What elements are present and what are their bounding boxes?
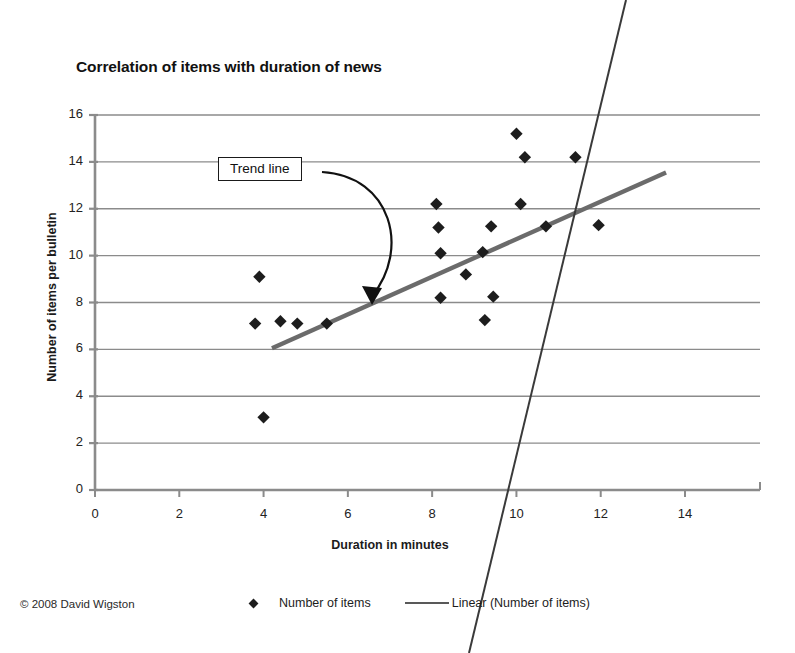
plot-area <box>0 0 795 653</box>
data-point-diamond <box>487 290 499 302</box>
data-point-diamond <box>291 317 303 329</box>
trend-line-annotation: Trend line <box>218 157 302 181</box>
data-point-diamond <box>479 314 491 326</box>
copyright-notice: © 2008 David Wigston <box>20 598 135 610</box>
data-point-diamond <box>253 271 265 283</box>
data-point-diamond <box>274 315 286 327</box>
data-point-diamond <box>434 247 446 259</box>
legend-label-trendline: Linear (Number of items) <box>452 596 590 610</box>
diamond-marker-icon <box>249 598 259 608</box>
chart-legend: Number of items Linear (Number of items) <box>248 596 590 610</box>
chart-figure: Correlation of items with duration of ne… <box>0 0 795 653</box>
data-point-diamond <box>432 221 444 233</box>
data-point-diamond <box>249 317 261 329</box>
scan-artifact-line <box>469 0 626 653</box>
data-point-diamond <box>460 268 472 280</box>
legend-entry-points: Number of items <box>248 596 371 610</box>
legend-label-points: Number of items <box>279 596 371 610</box>
line-marker-icon <box>405 602 449 605</box>
data-point-diamond <box>592 219 604 231</box>
data-point-diamond <box>485 220 497 232</box>
data-point-diamond <box>257 411 269 423</box>
annotation-arrow-curve <box>322 172 391 296</box>
legend-entry-trendline: Linear (Number of items) <box>371 596 590 610</box>
data-point-diamond <box>510 128 522 140</box>
